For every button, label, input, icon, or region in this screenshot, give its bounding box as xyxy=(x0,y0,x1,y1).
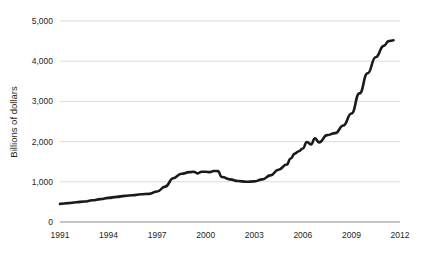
x-axis-tick-label: 2006 xyxy=(293,230,312,240)
x-axis-tick-label: 1994 xyxy=(99,230,118,240)
y-axis-tick-label: 4,000 xyxy=(32,56,54,66)
x-axis-tick-label: 2000 xyxy=(196,230,215,240)
y-axis-title: Billions of dollars xyxy=(8,86,19,158)
x-axis-tick-label: 2012 xyxy=(391,230,410,240)
y-axis-tick-label: 2,000 xyxy=(32,137,54,147)
x-axis-tick-label: 2003 xyxy=(245,230,264,240)
y-axis-title-label: Billions of dollars xyxy=(8,86,19,158)
chart-container: 01,0002,0003,0004,0005,000 1991199419972… xyxy=(0,0,424,259)
y-axis-tick-label: 3,000 xyxy=(32,96,54,106)
line-chart: 01,0002,0003,0004,0005,000 1991199419972… xyxy=(0,0,424,259)
x-axis-tick-label: 1991 xyxy=(51,230,70,240)
y-axis-tick-label: 1,000 xyxy=(32,177,54,187)
x-axis-tick-label: 1997 xyxy=(148,230,167,240)
y-axis-tick-label: 5,000 xyxy=(32,16,54,26)
x-axis-tick-label: 2009 xyxy=(342,230,361,240)
y-axis-tick-label: 0 xyxy=(48,217,53,227)
chart-background xyxy=(0,0,424,259)
